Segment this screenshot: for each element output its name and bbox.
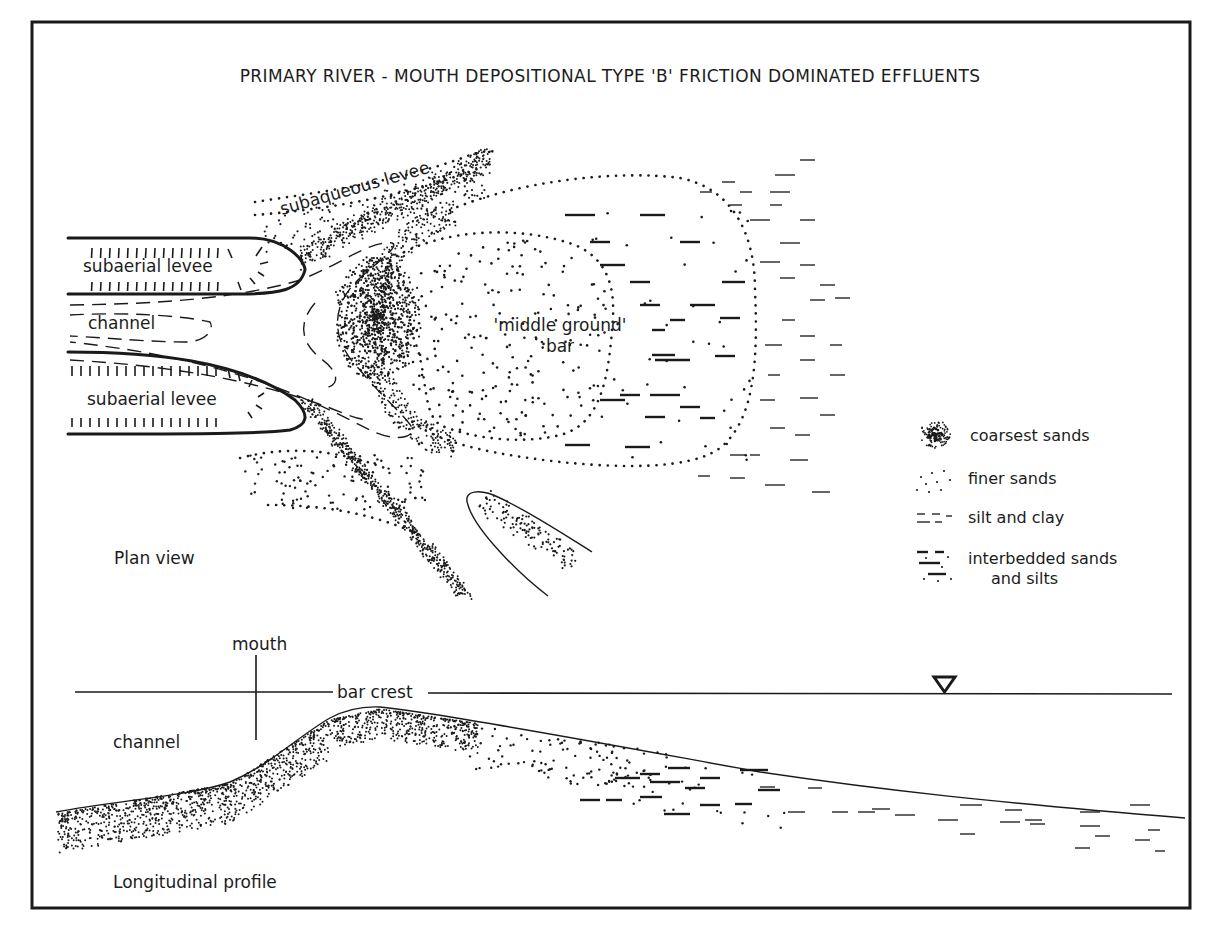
profile-channel-label: channel [113,732,180,752]
longitudinal-profile-caption: Longitudinal profile [113,872,277,892]
subaqueous-levee-lower-left-edge [240,451,390,470]
legend-interbedded-label-line1: interbedded sands [968,549,1117,568]
middle-ground-bar-label-line2: bar [546,336,574,356]
river-mouth-diagram: PRIMARY RIVER - MOUTH DEPOSITIONAL TYPE … [0,0,1221,940]
figure-title: PRIMARY RIVER - MOUTH DEPOSITIONAL TYPE … [240,66,981,86]
legend-interbedded-label-line2: and silts [991,569,1058,588]
water-surface-right [428,693,1172,694]
subaerial-levee-bottom-label: subaerial levee [87,389,217,409]
diagram-canvas: PRIMARY RIVER - MOUTH DEPOSITIONAL TYPE … [0,0,1221,940]
legend: coarsest sands finer sands silt and clay… [916,422,1118,588]
legend-silt-clay-label: silt and clay [968,508,1064,527]
mouth-label: mouth [232,634,287,654]
stipple-profile [57,709,1165,854]
channel-fork-dash [304,303,336,388]
legend-coarsest-sands-label: coarsest sands [970,426,1090,445]
channel-label: channel [88,313,155,333]
water-level-triangle-icon [934,677,955,692]
middle-ground-bar-inner-outline [390,232,613,439]
stipple-plan-view [244,148,850,600]
bar-crest-label: bar crest [337,682,413,702]
longitudinal-profile: mouth bar crest channel Longitudinal pro… [56,634,1185,892]
subaerial-levee-top-label: subaerial levee [83,256,213,276]
plan-view: subaqueous levee subaerial levee channel… [68,148,850,600]
middle-ground-bar-label-line1: 'middle ground' [494,315,627,335]
plan-view-caption: Plan view [114,548,195,568]
legend-symbols [916,422,952,583]
legend-finer-sands-label: finer sands [968,469,1057,488]
